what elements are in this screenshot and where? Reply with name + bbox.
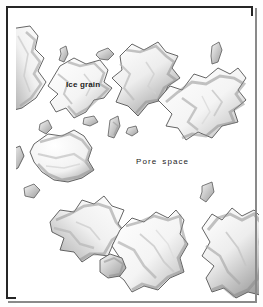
pore-space-label: Porespace [136, 158, 189, 166]
pore-space-label-word1: Pore [136, 157, 157, 166]
ice-grain-shape [202, 208, 259, 298]
figure-root: Ice grain Porespace [0, 0, 263, 307]
pore-space-label-word2: space [162, 157, 189, 166]
ice-grain-label: Ice grain [66, 81, 100, 89]
figure-frame: Ice grain Porespace [6, 6, 253, 299]
